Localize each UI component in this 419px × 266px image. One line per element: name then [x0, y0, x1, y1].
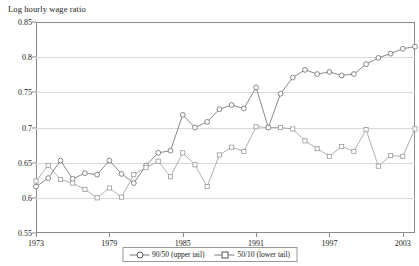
- data-point: [58, 177, 62, 181]
- data-point: [229, 103, 234, 108]
- data-point: [241, 106, 246, 111]
- data-point: [144, 165, 148, 169]
- x-tick-mark: [256, 233, 257, 237]
- data-point: [180, 112, 185, 117]
- series-line: [36, 127, 415, 198]
- y-axis-label: Log hourly wage ratio: [8, 4, 86, 14]
- data-point: [58, 158, 63, 163]
- data-point: [291, 127, 295, 131]
- data-point: [413, 44, 418, 49]
- data-point: [46, 163, 50, 167]
- data-point: [34, 179, 38, 183]
- data-series-layer: [36, 22, 415, 233]
- x-tick-label: 1997: [321, 239, 337, 248]
- data-point: [376, 164, 380, 168]
- data-point: [131, 181, 136, 186]
- data-point: [242, 149, 246, 153]
- data-point: [181, 151, 185, 155]
- y-tick-label: 0.65: [18, 158, 32, 167]
- data-point: [193, 125, 198, 130]
- data-point: [266, 125, 270, 129]
- data-point: [156, 150, 161, 155]
- series-line: [36, 47, 415, 187]
- circle-marker-icon: [129, 251, 149, 259]
- data-point: [205, 184, 209, 188]
- data-point: [193, 163, 197, 167]
- data-point: [401, 154, 405, 158]
- data-point: [119, 172, 124, 177]
- plot-area: 0.550.60.650.70.750.80.85 19731979198519…: [36, 22, 415, 233]
- y-tick-label: 0.8: [22, 53, 32, 62]
- data-point: [303, 67, 308, 72]
- y-tick-label: 0.75: [18, 88, 32, 97]
- legend-label: 50/10 (lower tail): [238, 250, 291, 259]
- data-point: [327, 154, 331, 158]
- data-point: [388, 154, 392, 158]
- data-point: [388, 51, 393, 56]
- data-point: [376, 55, 381, 60]
- chart-figure: Log hourly wage ratio 0.550.60.650.70.75…: [0, 0, 419, 266]
- data-point: [351, 72, 356, 77]
- data-point: [364, 128, 368, 132]
- legend-item: 90/50 (upper tail): [129, 250, 205, 259]
- data-point: [95, 172, 100, 177]
- data-point: [340, 144, 344, 148]
- x-tick-mark: [329, 233, 330, 237]
- x-tick-mark: [403, 233, 404, 237]
- data-point: [168, 148, 173, 153]
- data-point: [278, 125, 282, 129]
- data-point: [119, 195, 123, 199]
- data-point: [95, 196, 99, 200]
- data-point: [352, 149, 356, 153]
- data-point: [339, 73, 344, 78]
- x-tick-mark: [36, 233, 37, 237]
- data-point: [278, 91, 283, 96]
- data-point: [254, 125, 258, 129]
- data-point: [290, 75, 295, 80]
- data-point: [83, 171, 88, 176]
- y-tick-label: 0.6: [22, 193, 32, 202]
- data-point: [400, 46, 405, 51]
- data-point: [46, 176, 51, 181]
- data-point: [156, 159, 160, 163]
- data-point: [83, 187, 87, 191]
- data-point: [315, 147, 319, 151]
- data-point: [327, 70, 332, 75]
- x-tick-mark: [183, 233, 184, 237]
- data-point: [107, 158, 112, 163]
- data-point: [205, 119, 210, 124]
- y-tick-label: 0.7: [22, 123, 32, 132]
- data-point: [217, 107, 222, 112]
- x-tick-label: 1973: [28, 239, 44, 248]
- chart-legend: 90/50 (upper tail)50/10 (lower tail): [122, 247, 297, 262]
- data-point: [107, 186, 111, 190]
- y-tick-label: 0.85: [18, 18, 32, 27]
- y-tick-label: 0.55: [18, 229, 32, 238]
- series-2: [34, 125, 417, 200]
- data-point: [71, 181, 75, 185]
- data-point: [315, 72, 320, 77]
- square-marker-icon: [215, 251, 235, 259]
- data-point: [34, 184, 39, 189]
- data-point: [70, 176, 75, 181]
- series-1: [34, 44, 418, 189]
- data-point: [168, 175, 172, 179]
- data-point: [364, 62, 369, 67]
- legend-label: 90/50 (upper tail): [152, 250, 205, 259]
- x-tick-label: 1979: [101, 239, 117, 248]
- legend-item: 50/10 (lower tail): [215, 250, 291, 259]
- data-point: [217, 153, 221, 157]
- data-point: [413, 127, 417, 131]
- x-tick-label: 2003: [395, 239, 411, 248]
- data-point: [303, 139, 307, 143]
- data-point: [230, 145, 234, 149]
- x-tick-mark: [109, 233, 110, 237]
- data-point: [254, 85, 259, 90]
- data-point: [132, 173, 136, 177]
